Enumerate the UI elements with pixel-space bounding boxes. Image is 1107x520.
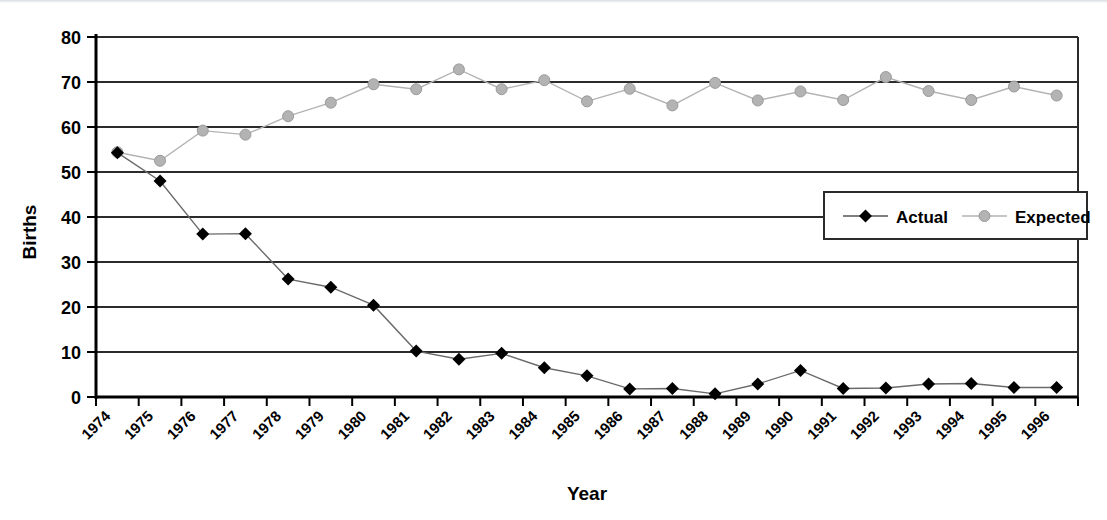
data-point-circle (838, 95, 849, 106)
data-point-circle (325, 97, 336, 108)
y-axis-title: Births (19, 205, 40, 260)
y-tick-label-70: 70 (61, 73, 81, 93)
data-point-circle (624, 83, 635, 94)
legend-label-expected: Expected (1015, 208, 1091, 227)
data-point-circle (667, 100, 678, 111)
x-tick-label: 1991 (804, 407, 840, 443)
y-tick-label-50: 50 (61, 163, 81, 183)
data-point-circle (197, 125, 208, 136)
data-point-circle (368, 79, 379, 90)
x-tick-label: 1983 (462, 407, 498, 443)
y-tick-label-20: 20 (61, 298, 81, 318)
data-point-circle (966, 95, 977, 106)
births-line-chart: 80 70 60 50 40 30 20 10 0 Births 1974197… (0, 0, 1107, 520)
y-tick-label-60: 60 (61, 118, 81, 138)
x-axis-title: Year (567, 483, 608, 504)
data-point-circle (923, 86, 934, 97)
x-tick-label: 1981 (377, 407, 413, 443)
x-tick-label: 1992 (846, 407, 882, 443)
data-point-circle (283, 111, 294, 122)
data-point-circle (240, 129, 251, 140)
legend-label-actual: Actual (896, 208, 948, 227)
x-tick-label: 1974 (78, 407, 114, 443)
data-point-circle (496, 84, 507, 95)
y-tick-label-30: 30 (61, 253, 81, 273)
chart-page: 80 70 60 50 40 30 20 10 0 Births 1974197… (0, 0, 1107, 520)
y-tick-label-40: 40 (61, 208, 81, 228)
x-tick-label: 1995 (974, 407, 1010, 443)
x-tick-label: 1993 (889, 407, 925, 443)
x-tick-label: 1980 (334, 407, 370, 443)
circle-marker-icon (979, 211, 990, 222)
chart-legend[interactable]: Actual Expected (824, 192, 1091, 239)
x-tick-label: 1989 (718, 407, 754, 443)
x-tick-label: 1976 (163, 407, 199, 443)
data-point-circle (539, 75, 550, 86)
x-tick-label: 1994 (932, 407, 968, 443)
x-tick-label: 1978 (249, 407, 285, 443)
data-point-circle (710, 77, 721, 88)
data-point-circle (582, 96, 593, 107)
x-tick-label: 1982 (419, 407, 455, 443)
data-point-circle (1051, 90, 1062, 101)
y-axis-tick-labels: 80 70 60 50 40 30 20 10 0 (61, 28, 81, 408)
x-tick-label: 1985 (548, 407, 584, 443)
data-point-circle (155, 155, 166, 166)
x-tick-label: 1987 (633, 407, 669, 443)
x-tick-label: 1984 (505, 407, 541, 443)
data-point-circle (752, 95, 763, 106)
x-axis-tick-labels: 1974197519761977197819791980198119821983… (78, 407, 1053, 443)
x-tick-label: 1986 (590, 407, 626, 443)
x-tick-label: 1977 (206, 407, 242, 443)
x-tick-label: 1988 (676, 407, 712, 443)
data-point-circle (411, 84, 422, 95)
x-tick-label: 1990 (761, 407, 797, 443)
x-tick-label: 1979 (291, 407, 327, 443)
data-point-circle (795, 86, 806, 97)
y-tick-label-0: 0 (71, 388, 81, 408)
y-tick-label-80: 80 (61, 28, 81, 48)
data-point-circle (1008, 81, 1019, 92)
y-tick-label-10: 10 (61, 343, 81, 363)
x-tick-label: 1996 (1017, 407, 1053, 443)
x-tick-label: 1975 (121, 407, 157, 443)
data-point-circle (880, 72, 891, 83)
data-point-circle (453, 64, 464, 75)
